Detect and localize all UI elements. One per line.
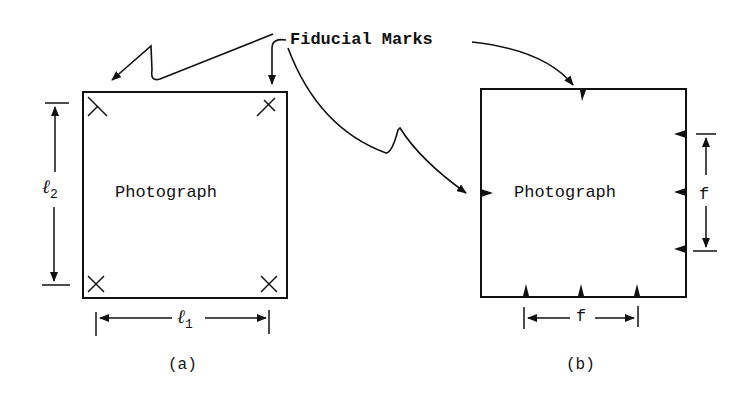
photograph-label-b: Photograph [514,183,616,202]
fiducial-diagram [0,0,750,397]
dimension-label-f-horizontal: f [573,307,589,326]
dimension-label-l2: ℓ2 [42,176,58,202]
fiducial-marks-label: Fiducial Marks [290,30,433,49]
caption-a: (a) [168,356,197,374]
dimension-label-f-vertical: f [699,183,709,206]
photograph-label-a: Photograph [115,183,217,202]
caption-b: (b) [566,356,595,374]
callout-arrows [112,34,573,193]
dimension-label-l1: ℓ1 [175,306,195,332]
